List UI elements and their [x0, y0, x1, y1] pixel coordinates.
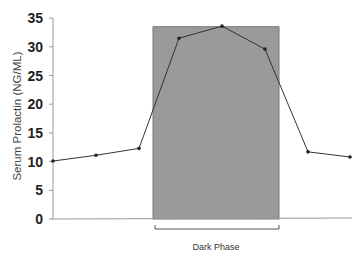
y-tick-label: 20 — [27, 96, 43, 112]
y-tick-label: 35 — [27, 10, 43, 26]
y-tick-label: 0 — [35, 211, 43, 227]
prolactin-chart: 05101520253035 — [0, 0, 357, 260]
dark-phase-bracket — [155, 225, 279, 229]
data-point — [263, 47, 267, 51]
dark-phase-region — [153, 27, 279, 219]
y-tick-label: 10 — [27, 154, 43, 170]
y-tick-label: 25 — [27, 68, 43, 84]
data-point — [177, 36, 181, 40]
data-point — [137, 147, 141, 151]
data-point — [51, 159, 55, 163]
x-axis — [53, 218, 352, 219]
dark-phase-label: Dark Phase — [156, 242, 276, 252]
data-point — [220, 24, 224, 28]
data-point — [94, 153, 98, 157]
y-tick-label: 15 — [27, 125, 43, 141]
y-tick-label: 5 — [35, 182, 43, 198]
data-point — [306, 150, 310, 154]
y-axis-label: Serum Prolactin (NG/ML) — [11, 41, 23, 191]
data-point — [348, 155, 352, 159]
y-tick-label: 30 — [27, 39, 43, 55]
